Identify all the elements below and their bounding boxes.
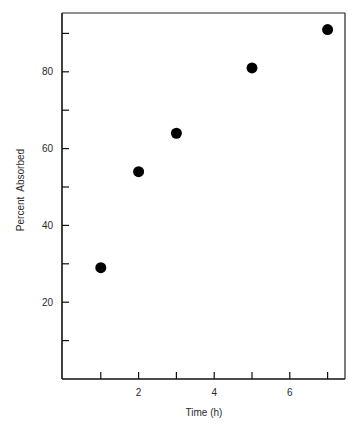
y-axis-ticks: 20406080 bbox=[42, 33, 69, 340]
data-point-marker bbox=[133, 166, 144, 177]
data-point-marker bbox=[322, 24, 333, 35]
y-axis-label: Percent Absorbed bbox=[15, 149, 26, 231]
y-tick-label: 80 bbox=[42, 66, 54, 77]
x-tick-label: 2 bbox=[136, 387, 142, 398]
data-point-marker bbox=[171, 128, 182, 139]
data-points bbox=[95, 24, 333, 273]
plot-frame bbox=[62, 13, 345, 379]
x-tick-label: 4 bbox=[211, 387, 217, 398]
x-axis-label: Time (h) bbox=[186, 407, 223, 418]
x-tick-label: 6 bbox=[287, 387, 293, 398]
y-tick-label: 60 bbox=[42, 143, 54, 154]
data-point-marker bbox=[95, 262, 106, 273]
x-axis-ticks: 246 bbox=[101, 372, 328, 398]
scatter-chart: 246 20406080 Time (h) Percent Absorbed bbox=[0, 0, 356, 430]
y-tick-label: 20 bbox=[42, 297, 54, 308]
data-point-marker bbox=[247, 62, 258, 73]
y-tick-label: 40 bbox=[42, 220, 54, 231]
